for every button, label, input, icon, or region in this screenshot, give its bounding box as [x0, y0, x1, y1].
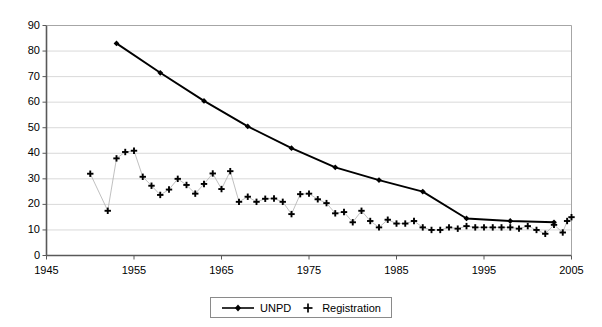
x-axis-tick-label: 1985 [374, 264, 420, 276]
registration-point [227, 168, 233, 174]
y-axis-tick-label: 60 [8, 95, 40, 107]
x-axis-tick-label: 1995 [461, 264, 507, 276]
x-axis-tick-label: 1955 [111, 264, 157, 276]
legend-item-unpd: UNPD [221, 302, 291, 314]
registration-point [402, 220, 408, 226]
registration-point [297, 191, 303, 197]
registration-point [437, 227, 443, 233]
registration-point [218, 186, 224, 192]
x-axis-tick-label: 2005 [549, 264, 595, 276]
plot-frame [47, 26, 572, 256]
registration-point [271, 195, 277, 201]
legend-item-registration: Registration [299, 302, 381, 314]
registration-point [315, 196, 321, 202]
y-axis-tick-label: 0 [8, 249, 40, 261]
y-axis-tick-label: 10 [8, 223, 40, 235]
registration-point [393, 220, 399, 226]
chart-plot-area [0, 0, 602, 327]
series-registration [87, 148, 575, 237]
legend-label-registration: Registration [322, 302, 381, 314]
registration-point [411, 218, 417, 224]
unpd-line [117, 43, 555, 222]
y-axis-tick-label: 40 [8, 146, 40, 158]
x-axis-tick-label: 1975 [286, 264, 332, 276]
registration-point [516, 225, 522, 231]
chart-legend: UNPD Registration [210, 297, 392, 318]
y-axis-tick-label: 70 [8, 70, 40, 82]
registration-connector [90, 151, 571, 234]
gridlines [47, 26, 572, 230]
registration-point [455, 225, 461, 231]
unpd-point [376, 177, 382, 183]
unpd-point [332, 164, 338, 170]
registration-point [262, 196, 268, 202]
series-unpd [114, 40, 557, 225]
registration-point [105, 208, 111, 214]
y-axis-tick-label: 30 [8, 172, 40, 184]
plus-icon [299, 302, 317, 314]
x-axis-tick-label: 1965 [199, 264, 245, 276]
registration-point [463, 223, 469, 229]
line-diamond-icon [221, 302, 255, 314]
registration-point [87, 171, 93, 177]
registration-point [306, 190, 312, 196]
registration-point [428, 227, 434, 233]
chart-container: 0102030405060708090 19451955196519751985… [0, 0, 602, 327]
registration-point [525, 223, 531, 229]
y-axis-tick-label: 80 [8, 44, 40, 56]
y-axis-tick-label: 20 [8, 197, 40, 209]
registration-point [533, 227, 539, 233]
registration-point [113, 155, 119, 161]
y-axis-tick-label: 90 [8, 19, 40, 31]
unpd-point [507, 218, 513, 224]
y-axis-tick-label: 50 [8, 121, 40, 133]
registration-point [245, 194, 251, 200]
x-axis-tick-label: 1945 [24, 264, 70, 276]
registration-point [288, 211, 294, 217]
registration-point [122, 149, 128, 155]
legend-label-unpd: UNPD [260, 302, 291, 314]
